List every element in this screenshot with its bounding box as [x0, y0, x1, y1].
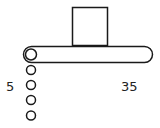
diagram-canvas: 5 35	[0, 0, 160, 128]
diagram-svg	[0, 0, 160, 128]
block-square	[73, 8, 108, 46]
left-label: 5	[6, 80, 14, 93]
chain-circle	[27, 66, 36, 75]
chain-circle	[27, 111, 36, 120]
chain-circle	[26, 49, 37, 60]
chain-circle	[27, 81, 36, 90]
lever-bar	[24, 47, 153, 63]
chain-circle	[27, 96, 36, 105]
right-label: 35	[121, 80, 138, 93]
